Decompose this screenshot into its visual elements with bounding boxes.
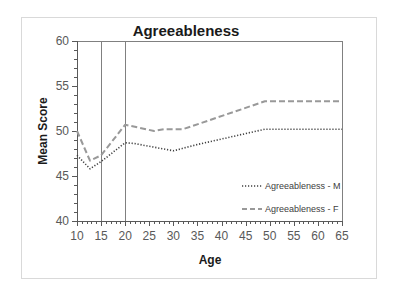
x-tick-label: 45	[239, 229, 253, 243]
line-chart: Agreeableness 40455055601015202530354045…	[0, 0, 393, 295]
y-axis-title: Mean Score	[36, 97, 50, 165]
legend-label-m: Agreeableness - M	[265, 181, 341, 191]
x-tick-label: 35	[191, 229, 205, 243]
y-tick-label: 55	[56, 79, 70, 93]
y-tick-label: 45	[56, 169, 70, 183]
x-tick-label: 30	[167, 229, 181, 243]
x-tick-label: 60	[311, 229, 325, 243]
x-tick-label: 15	[94, 229, 108, 243]
chart-title: Agreeableness	[133, 22, 240, 39]
x-tick-label: 55	[287, 229, 301, 243]
y-tick-label: 60	[56, 34, 70, 48]
y-tick-label: 40	[56, 214, 70, 228]
x-tick-label: 65	[335, 229, 349, 243]
x-tick-label: 50	[263, 229, 277, 243]
x-axis-title: Age	[199, 253, 222, 267]
y-tick-label: 50	[56, 124, 70, 138]
x-tick-label: 20	[119, 229, 133, 243]
x-tick-label: 10	[70, 229, 84, 243]
x-tick-label: 40	[215, 229, 229, 243]
legend-label-f: Agreeableness - F	[265, 204, 339, 214]
x-tick-label: 25	[143, 229, 157, 243]
